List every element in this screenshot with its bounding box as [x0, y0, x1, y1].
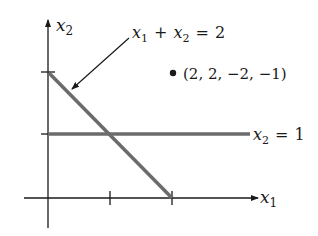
x2-axis-label: x2	[56, 15, 73, 38]
label-x1-plus-x2-eq-2: x1+x2=2	[132, 23, 225, 45]
feasible-region-diagram: x2 x1 x1+x2=2 x2=1 (2, 2, −2, −1)	[0, 0, 318, 236]
point-marker-icon	[170, 70, 176, 76]
pointer-arrow-icon	[72, 38, 129, 89]
point-label: (2, 2, −2, −1)	[183, 65, 287, 83]
label-x2-eq-1: x2=1	[253, 125, 305, 147]
x1-axis-label: x1	[260, 187, 277, 210]
